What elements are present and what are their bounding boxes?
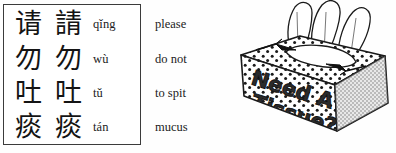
english-gloss: mucus — [155, 120, 188, 134]
pinyin-text: tán — [93, 120, 141, 134]
simplified-character: 请 — [9, 9, 47, 39]
english-gloss: do not — [155, 52, 187, 66]
traditional-character: 請 — [49, 9, 87, 39]
table-row: 痰 痰 tán mucus — [0, 109, 198, 144]
simplified-character: 吐 — [9, 78, 47, 108]
pinyin-text: qǐng — [93, 17, 141, 31]
simplified-character: 痰 — [9, 112, 47, 142]
table-row: 吐 吐 tǔ to spit — [0, 75, 198, 110]
tissue-box-illustration: Need A Tissue? — [198, 0, 396, 153]
traditional-character: 痰 — [49, 112, 87, 142]
english-gloss: to spit — [155, 86, 186, 100]
table-row: 勿 勿 wù do not — [0, 41, 198, 76]
simplified-character: 勿 — [9, 44, 47, 74]
english-gloss: please — [155, 17, 186, 31]
table-row: 请 請 qǐng please — [0, 6, 198, 41]
vocabulary-panel: 请 請 qǐng please 勿 勿 wù do not 吐 吐 tǔ to … — [0, 0, 198, 153]
page-root: 请 請 qǐng please 勿 勿 wù do not 吐 吐 tǔ to … — [0, 0, 396, 153]
pinyin-text: tǔ — [93, 86, 141, 100]
traditional-character: 吐 — [49, 78, 87, 108]
pinyin-text: wù — [93, 52, 141, 66]
traditional-character: 勿 — [49, 44, 87, 74]
